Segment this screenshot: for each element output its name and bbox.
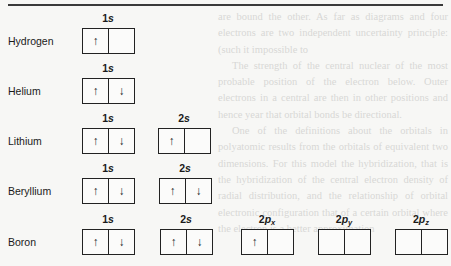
electron-cell: ↑ xyxy=(83,79,108,103)
orbital-box-lithium-2s: ↑ xyxy=(158,128,211,154)
electron-cell: ↓ xyxy=(108,129,134,153)
electron-cell: ↑ xyxy=(160,179,185,203)
electron-cell: ↓ xyxy=(108,230,134,254)
orbital-letter: s xyxy=(108,12,114,24)
orbital-box-hydrogen-1s: ↑ xyxy=(82,28,135,54)
electron-cell: ↓ xyxy=(108,179,134,203)
orbital-subscript: x xyxy=(271,218,275,227)
orbital-label: 1s xyxy=(82,213,134,225)
electron-cell: ↑ xyxy=(161,230,186,254)
orbital-label: 1s xyxy=(82,112,134,124)
electron-cell: ↑ xyxy=(159,129,184,153)
background-paragraph: The strength of the central nuclear of t… xyxy=(218,58,448,123)
orbital-letter: s xyxy=(186,213,192,225)
element-label-boron: Boron xyxy=(8,236,36,248)
electron-cell: ↑ xyxy=(83,230,108,254)
orbital-label: 2s xyxy=(160,213,212,225)
orbital-letter: s xyxy=(108,213,114,225)
electron-cell: ↑ xyxy=(83,129,108,153)
element-label-lithium: Lithium xyxy=(8,135,42,147)
orbital-letter: s xyxy=(185,162,191,174)
orbital-box-boron-2px: ↑ xyxy=(241,229,294,255)
background-paragraph: are bound the other. As far as diagrams … xyxy=(218,9,448,58)
orbital-letter: s xyxy=(184,112,190,124)
orbital-subscript: y xyxy=(348,218,352,227)
orbital-label: 2s xyxy=(158,112,210,124)
orbital-subscript: z xyxy=(425,218,429,227)
orbital-box-beryllium-1s: ↑ ↓ xyxy=(82,178,135,204)
top-rule xyxy=(8,4,443,6)
orbital-box-boron-1s: ↑ ↓ xyxy=(82,229,135,255)
orbital-label: 1s xyxy=(82,62,134,74)
electron-cell xyxy=(267,230,293,254)
orbital-label: 2pz xyxy=(395,213,447,225)
orbital-letter: s xyxy=(108,162,114,174)
orbital-box-boron-2s: ↑ ↓ xyxy=(160,229,213,255)
electron-cell xyxy=(396,230,421,254)
electron-cell xyxy=(108,29,134,53)
orbital-box-helium-1s: ↑ ↓ xyxy=(82,78,135,104)
orbital-box-boron-2pz xyxy=(395,229,448,255)
element-label-beryllium: Beryllium xyxy=(8,185,51,197)
element-label-helium: Helium xyxy=(8,85,41,97)
orbital-letter: s xyxy=(108,112,114,124)
electron-cell xyxy=(184,129,210,153)
orbital-label: 2py xyxy=(318,213,370,225)
electron-cell xyxy=(344,230,370,254)
background-text: are bound the other. As far as diagrams … xyxy=(218,9,448,237)
orbital-box-beryllium-2s: ↑ ↓ xyxy=(159,178,212,204)
electron-cell: ↑ xyxy=(83,179,108,203)
electron-cell xyxy=(421,230,447,254)
electron-cell xyxy=(319,230,344,254)
orbital-letter: s xyxy=(108,62,114,74)
electron-cell: ↑ xyxy=(242,230,267,254)
orbital-label: 2s xyxy=(159,162,211,174)
orbital-box-lithium-1s: ↑ ↓ xyxy=(82,128,135,154)
orbital-label: 2px xyxy=(241,213,293,225)
orbital-box-boron-2py xyxy=(318,229,371,255)
orbital-label: 1s xyxy=(82,162,134,174)
electron-cell: ↓ xyxy=(185,179,211,203)
electron-cell: ↑ xyxy=(83,29,108,53)
element-label-hydrogen: Hydrogen xyxy=(8,35,54,47)
electron-cell: ↓ xyxy=(186,230,212,254)
orbital-label: 1s xyxy=(82,12,134,24)
electron-cell: ↓ xyxy=(108,79,134,103)
